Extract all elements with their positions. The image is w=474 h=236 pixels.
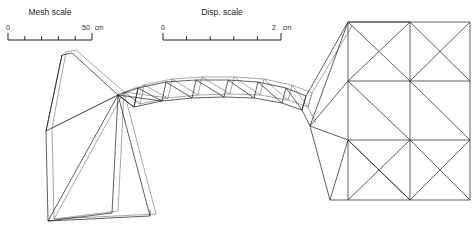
mesh-figure: Mesh scale050cmDisp. scale02cm (0, 0, 474, 236)
mesh-scale-title: Mesh scale (29, 7, 72, 17)
figure-background (0, 0, 474, 236)
disp-scale-max-label: 2 (272, 24, 276, 31)
disp-scale-min-label: 0 (161, 24, 165, 31)
mesh-scale-min-label: 0 (6, 24, 10, 31)
disp-scale-title: Disp. scale (201, 7, 243, 17)
mesh-scale-unit-label: cm (95, 24, 104, 31)
mesh-scale-max-label: 50 (82, 24, 90, 31)
disp-scale-unit-label: cm (283, 24, 292, 31)
